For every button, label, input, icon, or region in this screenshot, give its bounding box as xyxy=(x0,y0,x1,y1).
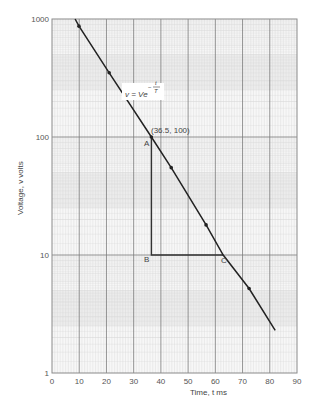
data-point-marker xyxy=(107,71,111,75)
x-tick-label: 40 xyxy=(156,377,165,386)
formula-exponent-sign: − xyxy=(148,84,152,90)
x-tick-label: 90 xyxy=(293,377,302,386)
x-tick-label: 80 xyxy=(265,377,274,386)
x-axis-label: Time, t ms xyxy=(190,388,227,397)
semilog-chart: 1101001000 0102030405060708090 v = Ve t … xyxy=(0,0,315,413)
y-tick-label: 100 xyxy=(36,133,50,142)
y-axis-label: Voltage, v volts xyxy=(16,161,25,215)
point-a-coordinates: (36.5, 100) xyxy=(151,126,190,135)
formula-label: v = Ve xyxy=(125,90,148,99)
data-point-marker xyxy=(169,166,173,170)
data-point-marker xyxy=(204,223,208,227)
data-point-marker xyxy=(247,287,251,291)
x-tick-label: 10 xyxy=(75,377,84,386)
point-a-label: A xyxy=(144,139,150,148)
x-tick-label: 30 xyxy=(129,377,138,386)
x-tick-label: 70 xyxy=(238,377,247,386)
x-tick-label: 20 xyxy=(102,377,111,386)
point-b-label: B xyxy=(144,255,149,264)
x-tick-label: 60 xyxy=(211,377,220,386)
y-tick-label: 10 xyxy=(40,251,49,260)
y-tick-label: 1000 xyxy=(31,15,49,24)
x-tick-label: 50 xyxy=(184,377,193,386)
x-tick-label: 0 xyxy=(50,377,55,386)
data-point-marker xyxy=(77,24,81,28)
data-point-marker xyxy=(150,135,154,139)
x-tick-labels: 0102030405060708090 xyxy=(50,377,302,386)
y-tick-labels: 1101001000 xyxy=(31,15,49,378)
point-c-label: C xyxy=(221,256,227,265)
